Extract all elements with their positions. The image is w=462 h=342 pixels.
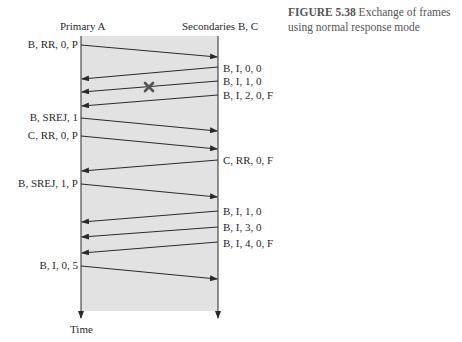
frame-label-8: B, SREJ, 1, P — [18, 177, 78, 189]
frame-label-7: C, RR, 0, F — [223, 154, 273, 166]
frame-label-2: B, I, 0, 0 — [223, 62, 262, 74]
frame-label-10: B, I, 3, 0 — [223, 221, 262, 233]
frame-label-12: B, I, 0, 5 — [40, 259, 79, 271]
frame-label-4: B, I, 2, 0, F — [223, 89, 273, 101]
secondaries-header: Secondaries B, C — [182, 20, 258, 32]
figure-number: FIGURE 5.38 — [288, 6, 356, 18]
sequence-diagram — [0, 0, 462, 342]
time-axis-label: Time — [70, 323, 93, 335]
frame-label-9: B, I, 1, 0 — [223, 205, 262, 217]
frame-label-6: C, RR, 0, P — [28, 129, 78, 141]
frame-label-1: B, RR, 0, P — [28, 38, 78, 50]
frame-label-11: B, I, 4, 0, F — [223, 237, 273, 249]
figure-caption: FIGURE 5.38 Exchange of frames using nor… — [288, 5, 462, 35]
frame-label-3: B, I, 1, 0 — [223, 75, 262, 87]
frame-label-5: B, SREJ, 1 — [30, 111, 78, 123]
primary-header: Primary A — [60, 20, 106, 32]
